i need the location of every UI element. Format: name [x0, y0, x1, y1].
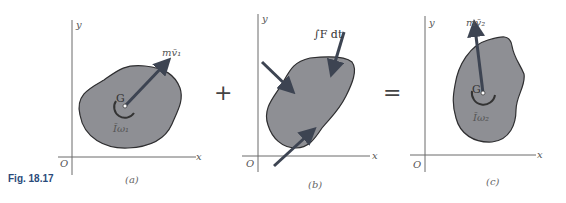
x-axis-label: x: [372, 150, 378, 161]
origin-label: O: [246, 158, 254, 169]
impulse-label: ∫F dt: [314, 28, 343, 41]
y-axis-label: y: [75, 19, 82, 30]
y-axis-label: y: [261, 13, 268, 24]
impulse-momentum-diagram: y x O G mv̄₁ Īω₁ (a) Fig. 18.17 + y x O …: [0, 0, 566, 203]
figure-label: Fig. 18.17: [8, 173, 54, 184]
rigid-body: [453, 37, 524, 142]
origin-label: O: [413, 159, 421, 170]
impulse-arrow-left: [262, 62, 289, 88]
panel-c: y x O G mv̄₂ Īω₂ (c): [410, 16, 543, 187]
angular-momentum-label: Īω₁: [112, 123, 129, 134]
panel-a: y x O G mv̄₁ Īω₁ (a): [58, 19, 202, 185]
panel-caption: (a): [125, 174, 139, 185]
momentum-label: mv̄₁: [162, 47, 181, 58]
panel-caption: (c): [486, 176, 500, 187]
x-axis-label: x: [537, 149, 543, 160]
rigid-body: [79, 66, 181, 148]
panel-caption: (b): [308, 179, 322, 190]
y-axis-label: y: [428, 17, 435, 28]
angular-momentum-label: Īω₂: [472, 112, 489, 123]
center-of-mass-dot: [481, 91, 485, 95]
origin-label: O: [60, 158, 68, 169]
center-label: G: [472, 83, 481, 96]
x-axis-label: x: [196, 151, 202, 162]
center-label: G: [116, 92, 125, 105]
plus-operator: +: [214, 80, 232, 105]
momentum-label: mv̄₂: [466, 17, 485, 28]
equals-operator: =: [383, 80, 401, 105]
panel-b: y x O ∫F dt (b): [242, 13, 378, 190]
